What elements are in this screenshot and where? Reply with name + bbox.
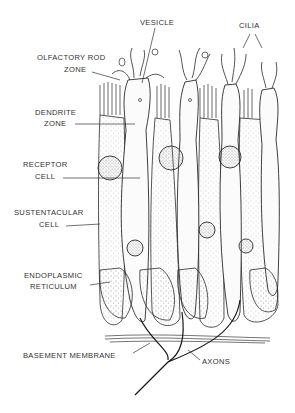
basement-membrane xyxy=(105,335,270,343)
label-vesicle: VESICLE xyxy=(140,18,174,28)
label-axons: AXONS xyxy=(202,357,230,367)
label-receptor-cell-line1: RECEPTOR xyxy=(23,160,67,170)
label-endoplasmic-reticulum-line2: RETICULUM xyxy=(30,282,77,292)
label-sustentacular-cell-line2: CELL xyxy=(39,220,59,230)
label-basement-membrane: BASEMENT MEMBRANE xyxy=(23,351,116,361)
label-endoplasmic-reticulum-line1: ENDOPLASMIC xyxy=(24,271,83,281)
label-cilia: CILIA xyxy=(239,21,260,31)
label-sustentacular-cell-line1: SUSTENTACULAR xyxy=(14,208,84,218)
label-dendrite-zone-line2: ZONE xyxy=(44,119,66,129)
label-dendrite-zone-line1: DENDRITE xyxy=(35,108,76,118)
label-olfactory-rod-zone-line2: ZONE xyxy=(64,65,86,75)
label-receptor-cell-line2: CELL xyxy=(35,172,55,182)
label-olfactory-rod-zone-line1: OLFACTORY ROD xyxy=(37,53,105,63)
olfactory-epithelium-diagram: VESICLE CILIA OLFACTORY ROD ZONE DENDRIT… xyxy=(0,0,295,413)
